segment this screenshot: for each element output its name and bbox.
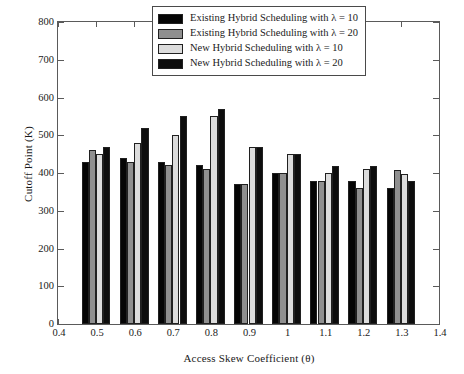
bar [241,184,248,324]
bar [370,166,377,324]
legend-swatch-icon [158,14,183,24]
bar [234,184,241,324]
bar [158,162,165,324]
y-axis-tick: 100 [58,286,64,287]
y-axis-tick-label: 800 [38,16,54,27]
bar [218,109,225,324]
x-axis-tick-label: 1.1 [319,327,332,338]
chart-legend: Existing Hybrid Scheduling with λ = 10Ex… [152,6,366,76]
y-axis-tick-label: 300 [38,205,54,216]
bar [363,169,370,324]
y-axis-tick-right [433,173,439,174]
x-axis-tick-label: 0.8 [205,327,218,338]
bar [332,166,339,324]
x-axis-tick: 1.4 [439,319,440,324]
x-axis-tick-label: 0.9 [243,327,256,338]
bar [356,188,363,324]
y-axis-tick-label: 500 [38,129,54,140]
y-axis-tick: 500 [58,135,64,136]
y-axis-title: Cutoff Point (K) [22,54,34,274]
x-axis-tick-top [439,22,440,27]
bar [210,116,217,324]
bar [318,181,325,324]
figure-canvas: Cutoff Point (K) Access Skew Coefficient… [0,0,464,374]
bar [103,147,110,324]
y-axis-tick: 700 [58,60,64,61]
y-axis-tick-label: 200 [38,243,54,254]
legend-item[interactable]: New Hybrid Scheduling with λ = 10 [158,41,358,56]
bar [279,173,286,324]
y-axis-tick: 0 [58,324,64,325]
legend-swatch-icon [158,44,183,54]
x-axis-tick-label: 1 [285,327,290,338]
bar [120,158,127,324]
bar [401,174,408,324]
bar [203,169,210,324]
y-axis-tick: 200 [58,249,64,250]
x-axis-tick-top [96,22,97,27]
legend-item[interactable]: New Hybrid Scheduling with λ = 20 [158,56,358,71]
bar [310,181,317,324]
bar [165,165,172,324]
x-axis-tick-label: 1.3 [395,327,408,338]
bar [287,154,294,324]
y-axis-tick-right [433,211,439,212]
y-axis-tick-label: 600 [38,92,54,103]
bar [272,173,279,324]
y-axis-tick: 600 [58,98,64,99]
bar [394,170,401,324]
legend-item-label: Existing Hybrid Scheduling with λ = 10 [190,13,358,24]
x-axis-tick-top [58,22,59,27]
x-axis-tick-label: 0.7 [167,327,180,338]
y-axis-tick-right [433,286,439,287]
x-axis-tick-label: 0.4 [52,327,65,338]
x-axis-tick-label: 1.4 [433,327,446,338]
bar [196,165,203,324]
bar [180,116,187,324]
y-axis-tick-right [433,249,439,250]
y-axis-tick-label: 400 [38,167,54,178]
bar [325,173,332,324]
bar [387,188,394,324]
y-axis-tick: 400 [58,173,64,174]
x-axis-tick-label: 0.5 [91,327,104,338]
y-axis-tick-right [433,135,439,136]
x-axis-tick-label: 1.2 [357,327,370,338]
legend-item-label: Existing Hybrid Scheduling with λ = 20 [190,28,358,39]
legend-item[interactable]: Existing Hybrid Scheduling with λ = 10 [158,11,358,26]
x-axis-title: Access Skew Coefficient (θ) [57,352,441,364]
x-axis-tick-top [134,22,135,27]
bar [249,147,256,324]
legend-swatch-icon [158,29,183,39]
y-axis-tick-right [433,60,439,61]
y-axis-tick-label: 100 [38,280,54,291]
bar [82,162,89,324]
bar [127,162,134,324]
bar [89,150,96,324]
legend-item-label: New Hybrid Scheduling with λ = 10 [190,43,343,54]
x-axis-tick-top [401,22,402,27]
y-axis-tick-label: 700 [38,54,54,65]
y-axis-tick-right [433,98,439,99]
bar [294,154,301,324]
legend-item-label: New Hybrid Scheduling with λ = 20 [190,58,343,69]
y-axis-tick: 300 [58,211,64,212]
y-axis-tick-right [433,324,439,325]
bar [408,181,415,324]
bar [172,135,179,324]
legend-swatch-icon [158,59,183,69]
x-axis-tick: 0.4 [58,319,59,324]
bar [348,181,355,324]
bar [141,128,148,324]
x-axis-tick-label: 0.6 [129,327,142,338]
bar [96,154,103,324]
bar [256,147,263,324]
legend-item[interactable]: Existing Hybrid Scheduling with λ = 20 [158,26,358,41]
bar [134,143,141,324]
